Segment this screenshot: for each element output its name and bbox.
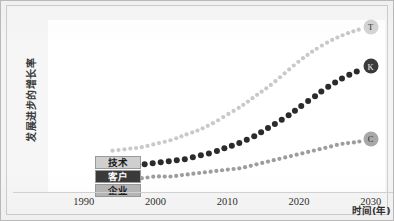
endpoint-marker-k-icon: K xyxy=(363,59,378,74)
endpoint-marker-c-icon: C xyxy=(363,131,378,146)
legend-item-label: 客户 xyxy=(108,172,128,182)
y-axis-title: 发展进步的增长率 xyxy=(23,57,38,141)
legend-item-1[interactable]: 技术 xyxy=(95,156,141,169)
chart-inner-frame: 发展进步的增长率 技术客户企业 TKC 19902000201020202030… xyxy=(6,5,388,215)
y-axis-title-container: 发展进步的增长率 xyxy=(19,6,41,192)
x-tick-label-2000: 2000 xyxy=(145,196,166,207)
endpoint-marker-t-icon: T xyxy=(363,19,378,34)
legend-item-label: 企业 xyxy=(108,186,128,196)
x-axis-line xyxy=(13,192,394,193)
legend-item-2[interactable]: 客户 xyxy=(95,170,141,183)
x-axis-tick-labels: 19902000201020202030 xyxy=(48,196,385,212)
series-2-dotted-curve xyxy=(110,68,360,167)
x-axis-title: 时间(年) xyxy=(352,203,391,217)
chart-figure: 发展进步的增长率 技术客户企业 TKC 19902000201020202030… xyxy=(0,0,394,221)
x-tick-label-2020: 2020 xyxy=(288,196,309,207)
legend-item-label: 技术 xyxy=(108,158,128,168)
plot-area: 技术客户企业 TKC xyxy=(48,20,385,192)
x-tick-label-2010: 2010 xyxy=(217,196,238,207)
x-tick-label-1990: 1990 xyxy=(73,196,94,207)
